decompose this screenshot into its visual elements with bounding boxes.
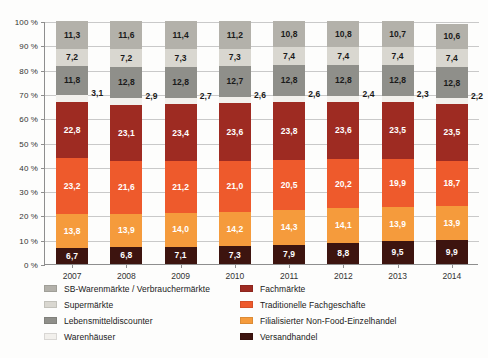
bar-segment[interactable]: 21,0	[219, 161, 251, 212]
legend-item[interactable]: Filialisierter Non-Food-Einzelhandel	[240, 315, 478, 326]
bar-segment[interactable]: 12,8	[273, 65, 305, 96]
segment-value-label: 7,1	[175, 251, 187, 260]
bar-segment[interactable]: 7,2	[110, 49, 142, 66]
bar-segment[interactable]: 7,3	[165, 49, 197, 67]
bar-segment[interactable]: 10,7	[382, 21, 414, 47]
y-axis-label: 20 %	[19, 212, 38, 221]
bar-segment[interactable]: 10,8	[273, 21, 305, 47]
bar-segment[interactable]: 13,9	[110, 214, 142, 248]
bar-column[interactable]: 10,87,412,82,423,620,214,18,82012	[327, 21, 359, 264]
bar-segment[interactable]: 7,4	[273, 47, 305, 65]
segment-value-label: 23,5	[389, 126, 406, 135]
bar-column[interactable]: 10,87,412,82,623,820,514,37,92011	[273, 21, 305, 264]
y-axis-label: 70 %	[19, 90, 38, 99]
y-axis-tick	[41, 265, 45, 266]
bar-segment[interactable]: 13,9	[436, 206, 468, 240]
bar-segment[interactable]: 7,1	[165, 247, 197, 264]
bar-segment[interactable]: 12,8	[436, 67, 468, 98]
bar-segment[interactable]: 13,8	[56, 214, 88, 248]
bar-segment[interactable]: 23,2	[56, 158, 88, 214]
bar-column[interactable]: 11,37,211,83,122,823,213,86,72007	[56, 21, 88, 264]
bar-segment[interactable]: 2,9	[110, 98, 142, 105]
bar-segment[interactable]: 19,9	[382, 159, 414, 207]
chart-root: 0 %10 %20 %30 %40 %50 %60 %70 %80 %90 %1…	[0, 0, 488, 358]
bar-segment[interactable]: 14,1	[327, 208, 359, 242]
segment-value-label: 7,4	[392, 52, 404, 61]
bar-segment[interactable]: 23,6	[219, 103, 251, 160]
segment-value-label: 12,8	[118, 78, 135, 87]
bar-segment[interactable]: 21,2	[165, 161, 197, 213]
segment-value-label: 2,6	[254, 91, 266, 100]
bar-segment[interactable]: 23,8	[273, 102, 305, 160]
bar-segment[interactable]: 7,2	[56, 49, 88, 66]
bar-segment[interactable]: 8,8	[327, 243, 359, 264]
legend-swatch	[44, 333, 57, 340]
x-axis-tick	[452, 264, 453, 268]
bar-segment[interactable]: 12,8	[165, 67, 197, 98]
x-axis-label: 2014	[442, 271, 461, 281]
segment-value-label: 2,6	[308, 90, 320, 99]
bar-column[interactable]: 11,47,312,82,723,421,214,07,12009	[165, 21, 197, 264]
bar-segment[interactable]: 20,2	[327, 159, 359, 208]
bar-segment[interactable]: 23,4	[165, 104, 197, 161]
segment-value-label: 10,8	[281, 30, 298, 39]
bar-column[interactable]: 11,27,312,72,623,621,014,27,32010	[219, 21, 251, 264]
bar-segment[interactable]: 9,9	[436, 240, 468, 264]
bar-segment[interactable]: 3,1	[56, 95, 88, 103]
bar-segment[interactable]: 7,3	[219, 49, 251, 67]
bar-segment[interactable]: 11,2	[219, 21, 251, 48]
legend-item[interactable]: Fachmärkte	[240, 283, 478, 294]
bar-segment[interactable]: 12,8	[382, 65, 414, 96]
segment-value-label: 12,8	[281, 76, 298, 85]
bar-segment[interactable]: 7,4	[436, 49, 468, 67]
bar-segment[interactable]: 23,5	[436, 104, 468, 161]
bar-column[interactable]: 11,67,212,82,923,121,613,96,82008	[110, 21, 142, 264]
segment-value-label: 18,7	[443, 179, 460, 188]
bar-segment[interactable]: 11,8	[56, 66, 88, 95]
bar-segment[interactable]: 12,8	[327, 65, 359, 96]
bar-column[interactable]: 10,67,412,82,223,518,713,99,92014	[436, 24, 468, 265]
bar-segment[interactable]: 20,5	[273, 160, 305, 210]
y-axis-tick	[41, 192, 45, 193]
legend-label: Traditionelle Fachgeschäfte	[260, 300, 365, 310]
bar-segment[interactable]: 21,6	[110, 161, 142, 213]
bar-segment[interactable]: 12,7	[219, 66, 251, 97]
segment-value-label: 12,8	[443, 79, 460, 88]
bar-segment[interactable]: 18,7	[436, 161, 468, 206]
chart-legend: SB-Warenmärkte / VerbrauchermärkteSuperm…	[44, 283, 478, 351]
bar-segment[interactable]: 9,5	[382, 241, 414, 264]
bar-segment[interactable]: 11,6	[110, 21, 142, 49]
bar-segment[interactable]: 7,4	[382, 47, 414, 65]
segment-value-label: 10,8	[335, 30, 352, 39]
legend-item[interactable]: Versandhandel	[240, 331, 478, 342]
legend-item[interactable]: Supermärkte	[44, 299, 240, 310]
bar-segment[interactable]: 14,3	[273, 210, 305, 245]
bar-segment[interactable]: 11,3	[56, 21, 88, 48]
segment-value-label: 10,7	[389, 30, 406, 39]
segment-value-label: 11,6	[118, 31, 134, 40]
bar-column[interactable]: 10,77,412,82,323,519,913,99,52013	[382, 21, 414, 264]
bar-segment[interactable]: 10,6	[436, 24, 468, 50]
bar-segment[interactable]: 11,4	[165, 21, 197, 49]
bar-segment[interactable]: 23,6	[327, 102, 359, 159]
bar-segment[interactable]: 6,8	[110, 247, 142, 264]
bar-segment[interactable]: 10,8	[327, 21, 359, 47]
bar-segment[interactable]: 6,7	[56, 248, 88, 264]
bar-segment[interactable]: 22,8	[56, 102, 88, 157]
legend-item[interactable]: Warenhäuser	[44, 331, 240, 342]
bar-segment[interactable]: 7,9	[273, 245, 305, 264]
bar-segment[interactable]: 14,2	[219, 212, 251, 247]
legend-item[interactable]: Lebensmitteldiscounter	[44, 315, 240, 326]
bar-segment[interactable]: 14,0	[165, 213, 197, 247]
bar-segment[interactable]: 12,8	[110, 67, 142, 98]
legend-item[interactable]: SB-Warenmärkte / Verbrauchermärkte	[44, 283, 240, 294]
legend-item[interactable]: Traditionelle Fachgeschäfte	[240, 299, 478, 310]
bar-segment[interactable]: 7,4	[327, 47, 359, 65]
bar-segment[interactable]: 7,3	[219, 246, 251, 264]
segment-value-label: 7,4	[283, 52, 295, 61]
bar-segment[interactable]: 23,1	[110, 105, 142, 161]
segment-value-label: 11,4	[172, 31, 188, 40]
bar-segment[interactable]: 13,9	[382, 207, 414, 241]
y-axis-label: 10 %	[19, 236, 38, 245]
bar-segment[interactable]: 23,5	[382, 102, 414, 159]
